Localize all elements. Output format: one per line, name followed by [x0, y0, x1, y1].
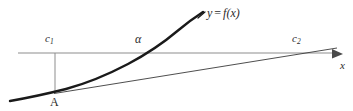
label-c1: c1 — [45, 33, 54, 45]
label-x-axis: x — [340, 60, 345, 71]
label-function-curve: y=f(x) — [207, 7, 240, 19]
label-alpha: α — [135, 33, 141, 45]
function-curve — [10, 12, 203, 101]
equals-sign: = — [212, 6, 223, 20]
math-diagram-figure: c1 α c2 x A y=f(x) — [0, 0, 353, 111]
label-c2: c2 — [292, 33, 301, 45]
x-axis-arrowhead — [332, 49, 343, 59]
function-expression: f(x) — [223, 6, 240, 20]
secant-line — [54, 48, 337, 94]
label-point-a: A — [50, 96, 59, 108]
